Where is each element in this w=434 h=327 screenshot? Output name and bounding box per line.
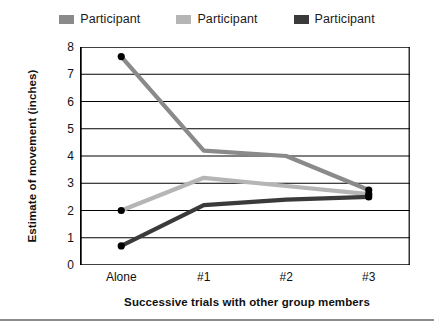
y-axis-tick-label: 3	[50, 176, 74, 190]
y-axis-tick-label: 7	[50, 67, 74, 81]
legend-item-label: Participant	[197, 12, 257, 26]
series-line	[121, 57, 369, 191]
plot-area	[80, 47, 410, 265]
legend-item: Participant	[294, 12, 375, 26]
legend-swatch-icon	[59, 15, 74, 24]
x-axis-title: Successive trials with other group membe…	[60, 296, 434, 308]
data-point-marker	[365, 193, 372, 200]
legend-item-label: Participant	[315, 12, 375, 26]
chart-figure: Participant Participant Participant Esti…	[0, 0, 434, 327]
legend-item: Participant	[176, 12, 257, 26]
y-axis-title: Estimate of movement (inches)	[26, 46, 38, 266]
legend-swatch-icon	[294, 15, 309, 24]
legend-item: Participant	[59, 12, 140, 26]
y-axis-tick-label: 8	[50, 40, 74, 54]
y-axis-tick-label: 6	[50, 95, 74, 109]
y-axis-tick-label: 5	[50, 122, 74, 136]
y-axis-tick-label: 0	[50, 258, 74, 272]
data-point-marker	[118, 207, 125, 214]
x-axis-tick-label: #1	[169, 270, 239, 284]
legend-swatch-icon	[176, 15, 191, 24]
chart-legend: Participant Participant Participant	[0, 9, 434, 29]
x-axis-tick-label: Alone	[86, 270, 156, 284]
footer-divider	[0, 319, 434, 321]
y-axis-tick-label: 2	[50, 204, 74, 218]
data-point-marker	[118, 242, 125, 249]
y-axis-tick-label: 1	[50, 231, 74, 245]
x-axis-tick-label: #3	[334, 270, 404, 284]
y-axis-tick-label: 4	[50, 149, 74, 163]
x-axis-tick-label: #2	[251, 270, 321, 284]
series-line	[121, 197, 369, 246]
chart-canvas	[80, 47, 410, 265]
legend-item-label: Participant	[80, 12, 140, 26]
data-point-marker	[118, 53, 125, 60]
